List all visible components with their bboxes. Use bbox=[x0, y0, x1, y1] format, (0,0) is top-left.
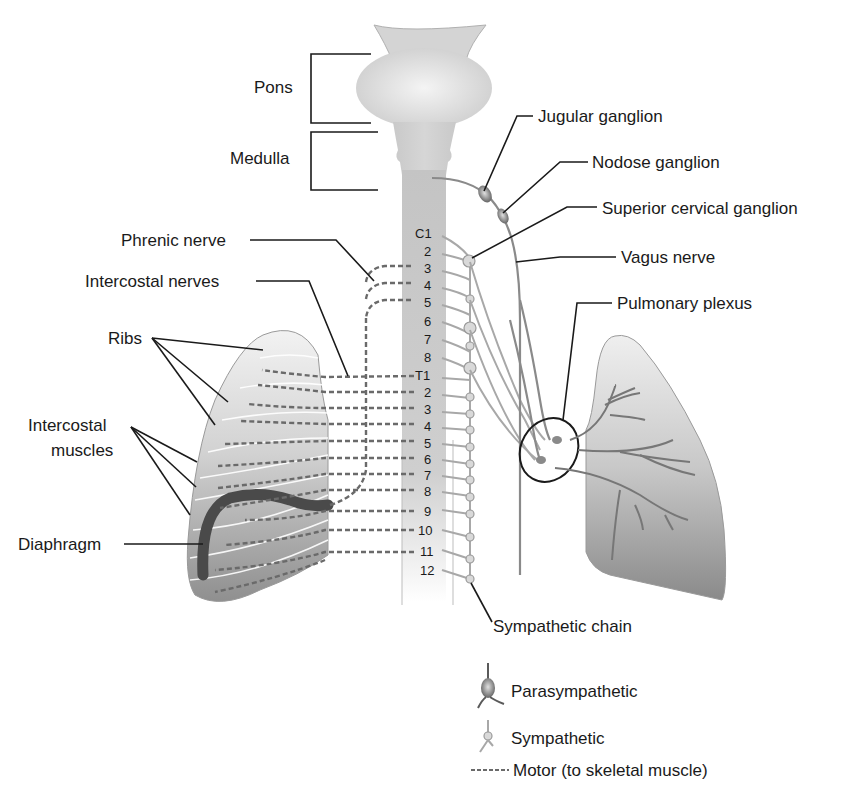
superior-cervical-ganglion-label: Superior cervical ganglion bbox=[602, 199, 798, 218]
medulla-label: Medulla bbox=[230, 149, 290, 168]
level-C1: C1 bbox=[415, 226, 432, 241]
pulmonary-plexus-label: Pulmonary plexus bbox=[617, 294, 752, 313]
right-lung-shape bbox=[586, 335, 726, 600]
nodose-ganglion-leader bbox=[503, 162, 588, 213]
level-T4: 4 bbox=[424, 419, 431, 434]
vagus-nerve-label: Vagus nerve bbox=[621, 248, 715, 267]
vagus-nerve bbox=[432, 178, 550, 575]
pons-label: Pons bbox=[254, 78, 293, 97]
intercostal-muscles-leaders bbox=[131, 427, 197, 515]
level-T10: 10 bbox=[418, 523, 432, 538]
level-C5: 5 bbox=[424, 295, 431, 310]
level-T9: 9 bbox=[424, 504, 431, 519]
parasympathetic-legend-label: Parasympathetic bbox=[511, 682, 638, 701]
phrenic-nerve-label: Phrenic nerve bbox=[121, 231, 226, 250]
parasympathetic-legend-icon bbox=[478, 663, 504, 708]
level-C4: 4 bbox=[424, 278, 431, 293]
level-T2: 2 bbox=[424, 385, 431, 400]
pons-shape bbox=[356, 48, 492, 128]
sympathetic-chain-label: Sympathetic chain bbox=[493, 617, 632, 636]
vagus-nerve-leader bbox=[516, 257, 616, 262]
level-C8: 8 bbox=[424, 350, 431, 365]
respiratory-innervation-diagram: Pons Medulla bbox=[0, 0, 866, 791]
level-T6: 6 bbox=[424, 452, 431, 467]
level-T8: 8 bbox=[424, 484, 431, 499]
plexus-ganglion-2 bbox=[536, 456, 546, 464]
intercostal-muscles-label-line2: muscles bbox=[51, 441, 113, 460]
sympathetic-chain-leader bbox=[471, 583, 492, 622]
plexus-ganglion-1 bbox=[552, 436, 562, 444]
level-T1: T1 bbox=[415, 368, 430, 383]
medulla-shape bbox=[393, 122, 456, 175]
level-T5: 5 bbox=[424, 436, 431, 451]
jugular-ganglion-leader bbox=[484, 116, 533, 191]
ribs-label: Ribs bbox=[108, 329, 142, 348]
level-T12: 12 bbox=[420, 563, 434, 578]
level-C6: 6 bbox=[424, 314, 431, 329]
diaphragm-label: Diaphragm bbox=[18, 535, 101, 554]
jugular-ganglion-label: Jugular ganglion bbox=[538, 107, 663, 126]
motor-legend-label: Motor (to skeletal muscle) bbox=[513, 761, 708, 780]
level-C3: 3 bbox=[424, 261, 431, 276]
superior-cervical-ganglion-leader bbox=[472, 207, 597, 258]
level-T7: 7 bbox=[424, 468, 431, 483]
legend: Parasympathetic Sympathetic Motor (to sk… bbox=[471, 663, 708, 780]
left-lung-shape bbox=[187, 331, 328, 602]
level-C7: 7 bbox=[424, 332, 431, 347]
intercostal-muscles-label-line1: Intercostal bbox=[28, 416, 106, 435]
phrenic-nerve-leader bbox=[250, 240, 374, 281]
right-lung bbox=[555, 335, 726, 600]
left-lung bbox=[187, 331, 328, 602]
sympathetic-legend-label: Sympathetic bbox=[511, 729, 605, 748]
nodose-ganglion-label: Nodose ganglion bbox=[592, 153, 720, 172]
level-T3: 3 bbox=[424, 402, 431, 417]
level-T11: 11 bbox=[420, 544, 434, 559]
level-C2: 2 bbox=[424, 244, 431, 259]
medulla-bracket bbox=[311, 132, 378, 190]
sympathetic-legend-icon bbox=[480, 720, 493, 752]
intercostal-nerves-label: Intercostal nerves bbox=[85, 272, 219, 291]
